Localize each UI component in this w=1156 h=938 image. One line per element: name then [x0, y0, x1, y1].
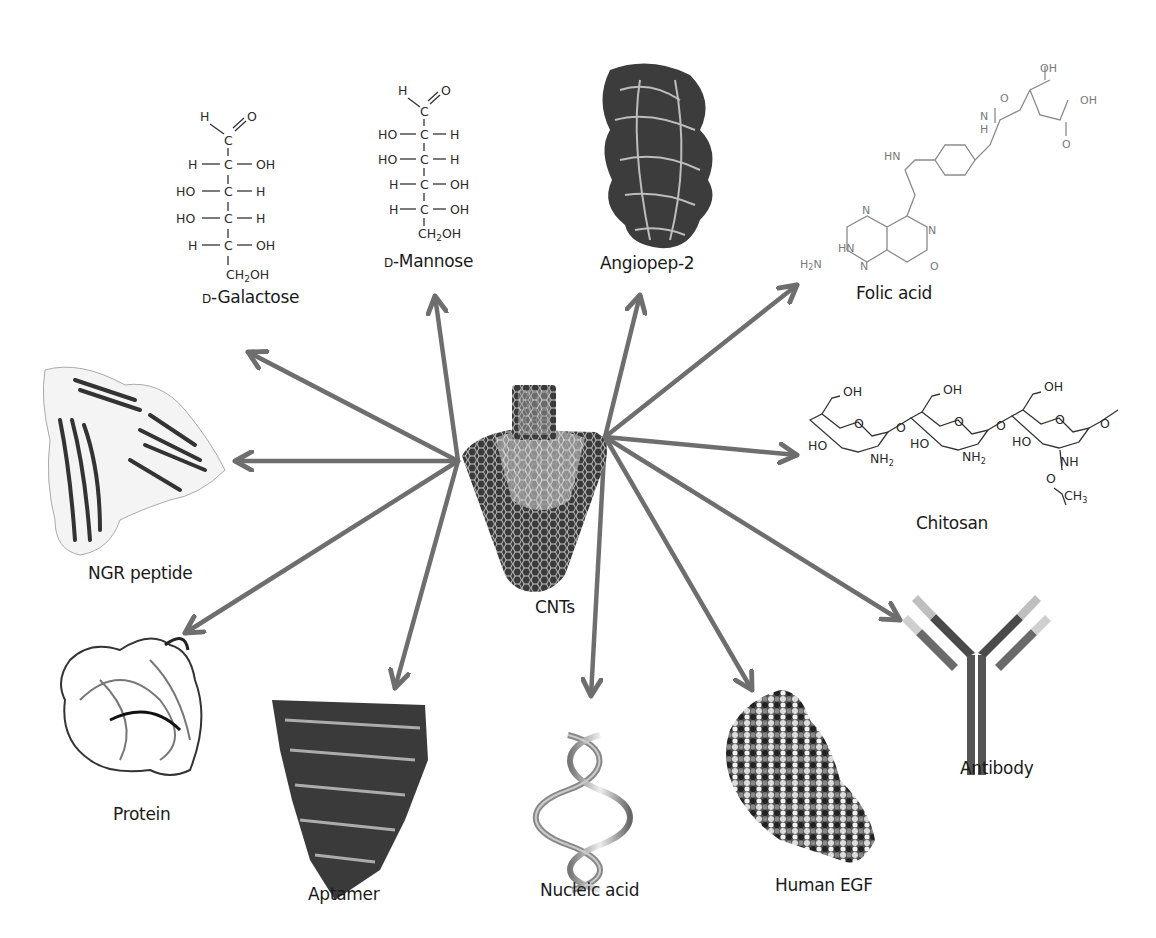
carbon-nanotube-icon: [462, 385, 607, 592]
svg-text:O: O: [1000, 92, 1009, 105]
svg-text:OH: OH: [1044, 379, 1063, 394]
svg-text:OH: OH: [450, 202, 469, 217]
svg-text:H: H: [188, 238, 197, 253]
svg-text:C: C: [224, 184, 233, 199]
d-galactose-structure: H O C HCOH HOCH HOCH HCOH CH2OH: [176, 109, 275, 284]
svg-text:O: O: [854, 416, 864, 431]
label-antibody: Antibody: [960, 758, 1033, 778]
svg-text:O: O: [996, 418, 1006, 433]
svg-text:C: C: [420, 104, 429, 119]
svg-text:N: N: [860, 260, 868, 273]
label-protein: Protein: [113, 804, 171, 824]
svg-text:HO: HO: [378, 127, 397, 142]
label-nucleic-acid: Nucleic acid: [540, 880, 639, 900]
svg-text:H2N: H2N: [800, 258, 822, 272]
svg-text:H: H: [450, 127, 459, 142]
svg-text:H: H: [398, 83, 407, 98]
svg-text:HN: HN: [884, 150, 901, 163]
arrow-to-folic-acid: [605, 285, 797, 437]
label-cnts: CNTs: [535, 597, 575, 617]
svg-text:HN: HN: [838, 242, 855, 255]
svg-text:O: O: [1062, 138, 1071, 151]
svg-text:C: C: [420, 127, 429, 142]
svg-text:C: C: [420, 152, 429, 167]
label-ngr-peptide: NGR peptide: [88, 563, 193, 583]
svg-text:OH: OH: [1080, 94, 1097, 107]
svg-text:OH: OH: [1040, 62, 1057, 75]
svg-text:OH: OH: [256, 157, 275, 172]
svg-text:HO: HO: [378, 152, 397, 167]
svg-text:CH2OH: CH2OH: [226, 267, 269, 284]
svg-text:C: C: [420, 177, 429, 192]
arrow-to-antibody: [605, 437, 900, 620]
svg-text:N: N: [928, 224, 936, 237]
svg-text:OH: OH: [843, 384, 862, 399]
svg-text:N: N: [980, 110, 988, 123]
svg-text:O: O: [1100, 416, 1110, 431]
svg-text:H: H: [389, 202, 398, 217]
svg-text:C: C: [224, 238, 233, 253]
svg-text:CH2OH: CH2OH: [418, 226, 461, 243]
svg-text:H: H: [980, 123, 988, 136]
chitosan-atoms: OHOHOH OOO OOO HOHOHO NH2 NH2 NH O CH3: [808, 379, 1110, 505]
svg-text:C: C: [224, 133, 233, 148]
label-d-mannose-text: -Mannose: [393, 251, 473, 271]
human-egf-space-filling-icon: [726, 690, 875, 863]
svg-text:NH2: NH2: [962, 449, 986, 466]
aptamer-structure-icon: [272, 700, 428, 900]
antibody-icon: [902, 595, 1051, 775]
svg-text:OH: OH: [256, 238, 275, 253]
svg-text:H: H: [256, 211, 265, 226]
d-mannose-structure: H O C HOCH HOCH HCOH HCOH CH2OH: [378, 83, 469, 243]
svg-text:HO: HO: [808, 438, 827, 453]
svg-text:OH: OH: [450, 177, 469, 192]
svg-text:O: O: [954, 414, 964, 429]
label-d-mannose-prefix: D: [384, 256, 393, 270]
svg-text:O: O: [247, 109, 257, 124]
folic-acid-structure: [847, 66, 1068, 262]
svg-text:HO: HO: [176, 184, 195, 199]
arrow-to-d-mannose: [435, 296, 458, 461]
svg-text:HO: HO: [176, 211, 195, 226]
svg-text:O: O: [930, 260, 939, 273]
svg-text:O: O: [441, 83, 451, 98]
svg-text:C: C: [420, 202, 429, 217]
label-human-egf: Human EGF: [775, 875, 873, 895]
svg-text:NH2: NH2: [870, 451, 894, 468]
svg-text:H: H: [200, 109, 209, 124]
label-chitosan: Chitosan: [916, 513, 988, 533]
svg-text:OH: OH: [943, 382, 962, 397]
double-helix-icon: [536, 735, 630, 890]
svg-text:NH: NH: [1060, 454, 1079, 469]
label-angiopep-2: Angiopep-2: [600, 253, 694, 273]
arrow-to-human-egf: [605, 437, 752, 690]
svg-text:HO: HO: [910, 436, 929, 451]
svg-text:O: O: [1046, 471, 1056, 486]
svg-text:H: H: [450, 152, 459, 167]
svg-text:H: H: [256, 184, 265, 199]
arrow-to-d-galactose: [248, 352, 458, 461]
label-d-galactose-prefix: D: [202, 292, 211, 306]
label-folic-acid: Folic acid: [856, 283, 932, 303]
svg-text:H: H: [188, 157, 197, 172]
label-aptamer: Aptamer: [308, 884, 379, 904]
svg-text:CH3: CH3: [1064, 488, 1087, 505]
label-d-galactose-text: -Galactose: [211, 287, 299, 307]
protein-ribbon-icon: [61, 639, 201, 775]
svg-text:HO: HO: [1012, 434, 1031, 449]
label-d-galactose: D-Galactose: [202, 287, 299, 307]
svg-text:C: C: [224, 157, 233, 172]
svg-text:H: H: [389, 177, 398, 192]
svg-text:O: O: [1055, 412, 1065, 427]
folic-acid-atoms: OHO OHO NH HN NN HNH2N NO: [800, 62, 1097, 273]
diagram-canvas: H O C HCOH HOCH HOCH HCOH CH2OH H O C: [0, 0, 1156, 938]
ngr-peptide-protein-icon: [43, 367, 225, 555]
angiopep-2-protein-icon: [603, 64, 713, 249]
svg-text:C: C: [224, 211, 233, 226]
svg-text:N: N: [862, 204, 870, 217]
svg-text:O: O: [896, 420, 906, 435]
label-d-mannose: D-Mannose: [384, 251, 473, 271]
